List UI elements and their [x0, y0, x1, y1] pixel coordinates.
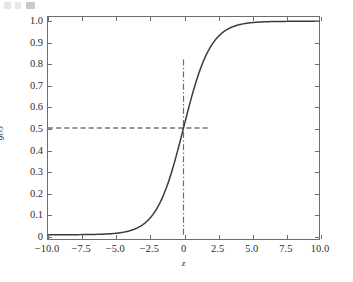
y-tick-10 — [48, 21, 52, 22]
x-axis-label-text: z — [182, 258, 186, 268]
y-tick-right-10 — [315, 21, 319, 22]
x-tick-7 — [287, 235, 288, 239]
x-tick-label-8: 10.0 — [311, 243, 329, 254]
y-tick-1 — [48, 215, 52, 216]
y-tick-right-2 — [315, 194, 319, 195]
x-tick-top-3 — [150, 17, 151, 21]
y-tick-right-1 — [315, 215, 319, 216]
y-tick-7 — [48, 86, 52, 87]
x-tick-top-7 — [287, 17, 288, 21]
x-tick-5 — [219, 235, 220, 239]
y-tick-2 — [48, 194, 52, 195]
x-tick-3 — [150, 235, 151, 239]
y-tick-label-3: 0.3 — [30, 166, 43, 177]
y-tick-label-0: 0 — [38, 230, 43, 241]
sigmoid-curve — [48, 21, 319, 234]
x-tick-label-6: 5.0 — [245, 243, 258, 254]
x-tick-2 — [116, 235, 117, 239]
y-tick-right-6 — [315, 107, 319, 108]
y-tick-0 — [48, 237, 52, 238]
x-tick-top-1 — [82, 17, 83, 21]
x-tick-top-6 — [253, 17, 254, 21]
x-tick-top-5 — [219, 17, 220, 21]
y-tick-label-8: 0.8 — [30, 58, 43, 69]
y-tick-right-5 — [315, 129, 319, 130]
x-tick-label-2: −5.0 — [106, 243, 125, 254]
y-tick-right-7 — [315, 86, 319, 87]
x-tick-6 — [253, 235, 254, 239]
y-tick-6 — [48, 107, 52, 108]
figure-canvas: −10.0−7.5−5.0−2.502.55.07.510.0 00.10.20… — [0, 0, 353, 282]
y-tick-8 — [48, 64, 52, 65]
y-tick-label-2: 0.2 — [30, 187, 43, 198]
scan-artifact — [4, 2, 40, 9]
y-tick-label-9: 0.9 — [30, 36, 43, 47]
y-tick-3 — [48, 172, 52, 173]
x-tick-label-4: 0 — [181, 243, 186, 254]
x-tick-label-7: 7.5 — [279, 243, 292, 254]
y-tick-label-5: 0.5 — [30, 123, 43, 134]
x-tick-top-4 — [185, 17, 186, 21]
x-tick-label-0: −10.0 — [35, 243, 59, 254]
y-tick-right-8 — [315, 64, 319, 65]
x-tick-label-5: 2.5 — [211, 243, 224, 254]
y-tick-label-10: 1.0 — [30, 15, 43, 26]
y-tick-right-4 — [315, 151, 319, 152]
x-axis-label: z — [0, 258, 353, 268]
x-tick-top-2 — [116, 17, 117, 21]
chart-svg — [48, 17, 319, 239]
y-tick-4 — [48, 151, 52, 152]
y-tick-label-7: 0.7 — [30, 79, 43, 90]
x-tick-4 — [185, 235, 186, 239]
x-tick-top-8 — [321, 17, 322, 21]
y-tick-5 — [48, 129, 52, 130]
x-tick-label-1: −7.5 — [72, 243, 91, 254]
plot-area — [47, 16, 320, 240]
x-tick-label-3: −2.5 — [140, 243, 159, 254]
y-tick-right-0 — [315, 237, 319, 238]
y-tick-right-3 — [315, 172, 319, 173]
x-tick-1 — [82, 235, 83, 239]
x-tick-8 — [321, 235, 322, 239]
y-tick-label-6: 0.6 — [30, 101, 43, 112]
y-tick-right-9 — [315, 43, 319, 44]
y-tick-label-1: 0.1 — [30, 209, 43, 220]
y-axis-label: g(z) — [0, 126, 4, 140]
y-tick-label-4: 0.4 — [30, 144, 43, 155]
y-tick-9 — [48, 43, 52, 44]
